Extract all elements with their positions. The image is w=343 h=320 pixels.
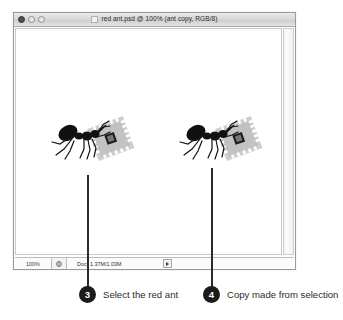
callout-3: 3 Select the red ant (79, 286, 178, 303)
minimize-icon[interactable] (28, 16, 35, 23)
close-icon[interactable] (18, 16, 25, 23)
document-proxy-icon (91, 16, 98, 23)
preview-proxy-button[interactable] (52, 258, 67, 269)
callout-4-label: Copy made from selection (227, 290, 338, 300)
leader-line-callout-4 (211, 168, 213, 294)
window-control-buttons (18, 16, 45, 23)
ant-copy-artwork (168, 111, 268, 177)
zoom-level-value: 100% (26, 261, 40, 267)
status-menu-arrow-icon[interactable] (163, 259, 172, 268)
leader-line-callout-3 (87, 175, 89, 294)
ant-original-artwork (40, 111, 140, 177)
maximize-icon[interactable] (38, 16, 45, 23)
window-titlebar[interactable]: red ant.psd @ 100% (ant copy, RGB/8) (14, 13, 295, 27)
callout-4-badge: 4 (203, 286, 220, 303)
zoom-level-field[interactable]: 100% (15, 258, 52, 269)
doc-size-value: 1.37M/1.03M (90, 261, 121, 267)
vertical-scrollbar[interactable] (283, 28, 294, 255)
image-canvas[interactable] (15, 28, 282, 255)
document-size-field[interactable]: Doc: 1.37M/1.03M (67, 258, 294, 269)
photoshop-document-window: red ant.psd @ 100% (ant copy, RGB/8) (13, 12, 296, 270)
callout-3-badge: 3 (79, 286, 96, 303)
callout-4: 4 Copy made from selection (203, 286, 338, 303)
ant-with-chip-illustration-copy (168, 111, 268, 177)
ant-with-chip-illustration (40, 111, 140, 177)
window-title: red ant.psd @ 100% (ant copy, RGB/8) (101, 16, 217, 23)
globe-icon (56, 261, 62, 267)
document-status-bar: 100% Doc: 1.37M/1.03M (15, 257, 294, 269)
window-title-group: red ant.psd @ 100% (ant copy, RGB/8) (14, 16, 295, 23)
window-body: 100% Doc: 1.37M/1.03M (14, 26, 295, 269)
callout-3-label: Select the red ant (103, 290, 178, 300)
